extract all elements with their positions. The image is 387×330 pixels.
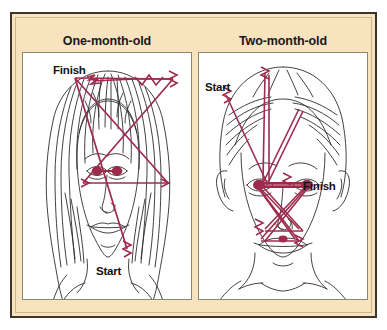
- panel-title-one-month-old: One-month-old: [22, 30, 192, 52]
- annotation-finish-two-month-old: Finish: [303, 180, 336, 192]
- panel-one-month-old: One-month-old: [22, 30, 192, 302]
- figure-root: One-month-old: [0, 0, 387, 330]
- annotation-start-two-month-old: Start: [205, 81, 230, 93]
- panel-two-month-old: Two-month-old: [198, 30, 368, 302]
- figure-card: One-month-old: [10, 12, 377, 318]
- face-drawing-one-month-old: [23, 53, 192, 300]
- panel-title-two-month-old: Two-month-old: [198, 30, 368, 52]
- panel-stage-two-month-old: Start Finish: [198, 52, 368, 300]
- annotation-finish-one-month-old: Finish: [53, 64, 86, 76]
- annotation-start-one-month-old: Start: [96, 265, 121, 277]
- panel-stage-one-month-old: Finish Start: [22, 52, 192, 300]
